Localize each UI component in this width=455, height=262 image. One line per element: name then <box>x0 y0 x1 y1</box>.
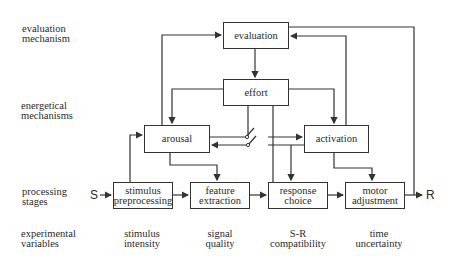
variable-line: uncertainty <box>349 239 409 249</box>
row-label-line: mechanisms <box>21 111 73 121</box>
row-label-processing-stages: processing stages <box>22 187 67 207</box>
effort-box: effort <box>223 79 289 106</box>
box-line: feature <box>205 186 234 196</box>
output-r-label: R <box>426 188 435 202</box>
box-line: adjustment <box>352 196 398 206</box>
arousal-box: arousal <box>144 125 210 153</box>
variable-signal-quality: signal quality <box>190 229 250 249</box>
box-line: extraction <box>199 196 241 206</box>
motor-adjustment-box: motor adjustment <box>345 182 405 209</box>
row-label-line: stages <box>22 197 67 207</box>
row-label-evaluation-mechanism: evaluation mechanism <box>22 24 70 44</box>
variable-line: compatibility <box>263 239 333 249</box>
variable-line: quality <box>190 239 250 249</box>
row-label-line: mechanism <box>22 34 70 44</box>
feature-extraction-box: feature extraction <box>190 182 250 209</box>
activation-box: activation <box>304 125 369 153</box>
box-line: choice <box>284 196 311 206</box>
box-line: response <box>280 186 317 196</box>
input-s-label: S <box>90 188 98 202</box>
box-line: motor <box>362 186 387 196</box>
variable-time-uncertainty: time uncertainty <box>349 229 409 249</box>
variable-sr-compatibility: S-R compatibility <box>263 229 333 249</box>
row-label-energetical-mechanisms: energetical mechanisms <box>21 101 73 121</box>
evaluation-box: evaluation <box>223 22 289 49</box>
row-label-experimental-variables: experimental variables <box>21 229 76 249</box>
box-line: stimulus <box>125 186 161 196</box>
row-label-line: variables <box>21 239 76 249</box>
variable-line: intensity <box>112 239 172 249</box>
response-choice-box: response choice <box>268 182 328 209</box>
variable-stimulus-intensity: stimulus intensity <box>112 229 172 249</box>
box-line: preprocessing <box>114 196 172 206</box>
stimulus-preprocessing-box: stimulus preprocessing <box>113 182 173 209</box>
